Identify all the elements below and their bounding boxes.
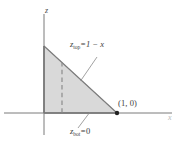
top-boundary-expression: 1 − x [86,39,104,49]
top-boundary-label: ztop=1 − x [70,40,104,49]
corner-point-marker [115,111,119,115]
figure-container: z x ztop=1 − x zbot=0 (1, 0) [0,0,176,151]
bottom-boundary-expression: 0 [86,126,90,136]
top-label-leader-line [81,57,98,81]
top-boundary-subscript: top [73,44,80,50]
corner-point-label: (1, 0) [118,99,137,108]
bottom-boundary-label: zbot=0 [70,127,90,136]
z-axis-label: z [45,7,48,15]
x-axis-label: x [168,114,172,122]
bottom-boundary-subscript: bot [73,131,80,137]
